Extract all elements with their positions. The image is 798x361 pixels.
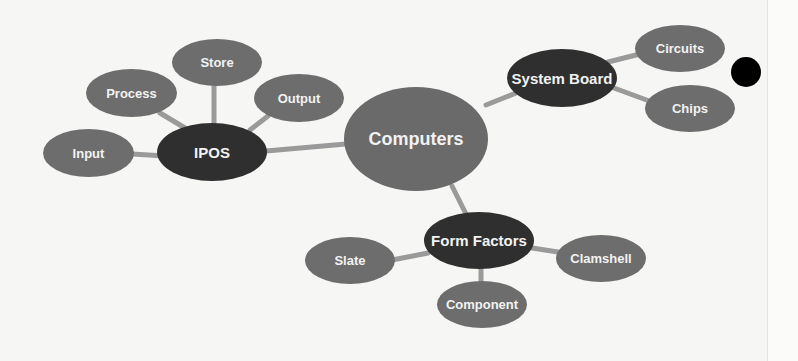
connector-systemboard-circuits — [608, 54, 640, 62]
node-output: Output — [254, 74, 344, 122]
node-process: Process — [86, 69, 177, 117]
node-label: Circuits — [656, 41, 704, 56]
node-form-factors: Form Factors — [424, 212, 534, 269]
node-computers: Computers — [344, 87, 488, 191]
node-label: Component — [446, 297, 518, 312]
node-label: Input — [73, 146, 105, 161]
node-ipos: IPOS — [157, 123, 267, 181]
node-input: Input — [43, 129, 134, 177]
node-label: Chips — [672, 101, 708, 116]
connector-ipos-output — [250, 116, 268, 130]
node-store: Store — [172, 39, 262, 86]
node-label: IPOS — [194, 144, 230, 161]
black-dot-marker — [731, 57, 761, 87]
node-label: Slate — [334, 253, 365, 268]
connector-ipos-process — [160, 113, 185, 128]
node-label: Computers — [368, 129, 463, 150]
node-chips: Chips — [645, 85, 735, 132]
connector-formfactors-clamshell — [532, 248, 558, 252]
node-component: Component — [437, 281, 527, 328]
connector-systemboard-chips — [614, 88, 652, 102]
node-slate: Slate — [305, 237, 395, 284]
connector-computers-formfactors — [452, 186, 466, 214]
node-circuits: Circuits — [635, 25, 725, 72]
node-system-board: System Board — [507, 49, 617, 107]
node-label: Process — [106, 86, 157, 101]
connector-ipos-computers — [266, 144, 346, 151]
node-label: Clamshell — [570, 251, 631, 266]
connector-computers-systemboard — [486, 93, 516, 105]
connector-formfactors-slate — [392, 253, 428, 260]
node-label: Form Factors — [431, 232, 527, 249]
node-clamshell: Clamshell — [556, 235, 646, 282]
node-label: Store — [200, 55, 233, 70]
node-label: System Board — [512, 70, 613, 87]
node-label: Output — [278, 91, 321, 106]
